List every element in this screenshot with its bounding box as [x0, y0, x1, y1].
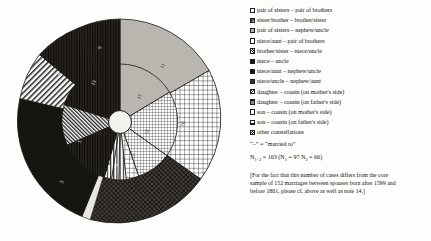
legend-item[interactable]: pair of sisters – pair of brothers — [250, 7, 425, 13]
legend-item-label: pair of sisters – nephew/uncle — [257, 27, 329, 33]
pie-chart-panel: 11 16 14 5 7 8 9 13 12 10 6 4 3 2 1 15 — [0, 0, 240, 241]
legend-item[interactable]: brother/sister – niece/uncle — [250, 48, 425, 54]
legend-item-label: brother/sister – niece/uncle — [257, 48, 322, 54]
legend-item[interactable]: son – cousin (on father's side) — [250, 119, 425, 125]
legend-item-label: sister/brother – brother/sister — [257, 17, 326, 23]
legend-item[interactable]: daughter – cousin (on father's side) — [250, 99, 425, 105]
legend-item[interactable]: pair of sisters – nephew/uncle — [250, 27, 425, 33]
footnote-text: [For the fact that this number of cases … — [250, 171, 396, 196]
legend-swatch-vert — [250, 109, 255, 114]
legend-item[interactable]: other constellations — [250, 129, 425, 135]
legend-item-label: son – cousin (on father's side) — [257, 119, 328, 125]
legend-item-label: son – cousin (on mother's side) — [257, 109, 332, 115]
legend-item[interactable]: niece/aunt – pair of brothers — [250, 38, 425, 44]
legend-item-label: niece/aunt – nephew/uncle — [257, 68, 321, 74]
legend-item[interactable]: daughter – cousin (on mother's side) — [250, 89, 425, 95]
legend-swatch-horiz — [250, 120, 255, 125]
nested-pie-chart: 11 16 14 5 7 8 9 13 12 10 6 4 3 2 1 15 — [14, 16, 226, 228]
legend-item[interactable]: niece/aunt – nephew/uncle — [250, 68, 425, 74]
legend-swatch-check — [250, 99, 255, 104]
center-hub — [109, 111, 132, 134]
legend-panel: pair of sisters – pair of brotherssister… — [240, 0, 431, 241]
legend-item[interactable]: son – cousin (on mother's side) — [250, 109, 425, 115]
legend-item-label: niece/aunt – pair of brothers — [257, 38, 325, 44]
legend-swatch-grid-coarse — [250, 38, 255, 43]
legend-swatch-crosshatch-dark — [250, 79, 255, 84]
figure-root: 11 16 14 5 7 8 9 13 12 10 6 4 3 2 1 15 — [0, 0, 431, 241]
legend-swatch-diag-left — [250, 89, 255, 94]
legend-swatch-gray — [250, 28, 255, 33]
legend-item-label: daughter – cousin (on father's side) — [257, 99, 341, 105]
legend-list: pair of sisters – pair of brotherssister… — [250, 7, 425, 135]
legend-swatch-grid-fine — [250, 18, 255, 23]
slice-label-14: 14 — [134, 182, 140, 188]
legend-swatch-dense-dark — [250, 69, 255, 74]
married-key-note: “–” = “married to” — [250, 141, 425, 147]
legend-item-label: niece – uncle — [257, 58, 289, 64]
legend-item-label: niece/uncle – nephew/aunt — [257, 78, 321, 84]
legend-swatch-black — [250, 59, 255, 64]
legend-swatch-diag-left-dense — [250, 130, 255, 135]
legend-item-label: pair of sisters – pair of brothers — [257, 7, 332, 13]
legend-swatch-light-dots — [250, 8, 255, 13]
pie-svg: 11 16 14 5 7 8 9 13 12 10 6 4 3 2 1 15 — [14, 16, 226, 228]
legend-item[interactable]: niece – uncle — [250, 58, 425, 64]
legend-item[interactable]: niece/uncle – nephew/aunt — [250, 78, 425, 84]
legend-swatch-diag-right — [250, 48, 255, 53]
n-total-value: 163 — [268, 154, 277, 160]
legend-item-label: daughter – cousin (on mother's side) — [257, 89, 344, 95]
legend-item[interactable]: sister/brother – brother/sister — [250, 17, 425, 23]
sample-size-formula: N1+2 = 163 (N1 = 97 N2 = 66) — [250, 154, 425, 162]
legend-item-label: other constellations — [257, 129, 304, 135]
